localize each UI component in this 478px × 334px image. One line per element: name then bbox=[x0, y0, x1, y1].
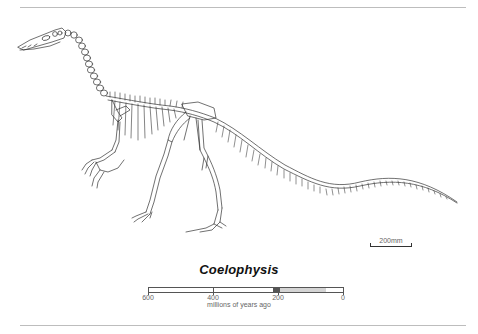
neck bbox=[65, 30, 108, 96]
scale-bar-line bbox=[370, 246, 412, 247]
figure-title: Coelophysis bbox=[0, 262, 478, 277]
scale-bar: 200mm bbox=[370, 237, 412, 249]
bottom-rule bbox=[20, 325, 466, 326]
tick-label-600: 600 bbox=[142, 294, 154, 301]
geologic-timeline bbox=[148, 287, 344, 293]
tick-label-200: 200 bbox=[272, 294, 284, 301]
timeline-axis-label: millions of years ago bbox=[0, 301, 478, 308]
tick-label-0: 0 bbox=[341, 294, 345, 301]
tick-label-400: 400 bbox=[207, 294, 219, 301]
coelophysis-skeleton-icon bbox=[0, 0, 478, 260]
dinosaur-era-segment bbox=[280, 288, 326, 292]
scale-bar-label: 200mm bbox=[370, 237, 412, 244]
